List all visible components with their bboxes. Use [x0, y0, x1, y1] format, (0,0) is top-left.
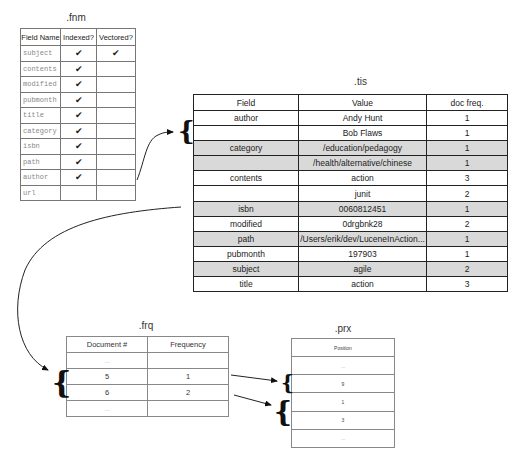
- arrow-fnm-to-tis: [137, 132, 173, 180]
- connector-arrows: [0, 0, 522, 464]
- arrow-frq-doc5-to-prx: [231, 375, 277, 381]
- arrow-tis-to-frq: [18, 207, 181, 370]
- arrow-frq-doc6-to-prx: [234, 395, 271, 405]
